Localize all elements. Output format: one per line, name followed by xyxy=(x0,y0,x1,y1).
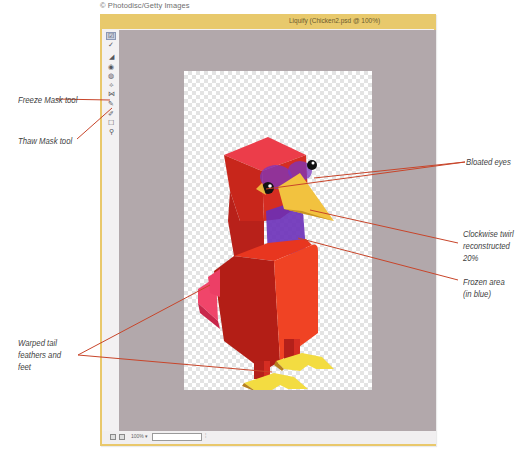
zoom-dropdown-icon[interactable]: ▾ xyxy=(145,433,148,439)
status-bar: 100% ▾ ¦ xyxy=(102,431,436,444)
pucker-tool-icon[interactable]: ◉ xyxy=(106,63,116,71)
callout-twirl-line2: reconstructed xyxy=(463,240,514,252)
callout-bloated-eyes: Bloated eyes xyxy=(466,156,511,168)
zoom-level: 100% xyxy=(131,433,144,439)
forward-warp-tool-icon[interactable]: ☑ xyxy=(106,32,116,40)
callout-warped: Warped tail feathers and feet xyxy=(18,337,61,373)
callout-frozen-area: Frozen area (in blue) xyxy=(463,276,505,300)
callout-freeze-mask: Freeze Mask tool xyxy=(18,94,77,106)
callout-twirl-line1: Clockwise twirl xyxy=(463,228,514,240)
callout-twirl: Clockwise twirl reconstructed 20% xyxy=(463,228,514,264)
callout-twirl-line3: 20% xyxy=(463,252,514,264)
image-canvas[interactable] xyxy=(184,71,372,390)
twirl-clockwise-tool-icon[interactable]: ◢ xyxy=(106,53,116,61)
preview-canvas-area[interactable] xyxy=(119,30,436,431)
push-left-tool-icon[interactable]: ⟡ xyxy=(106,81,116,89)
callout-warped-line2: feathers and xyxy=(18,349,61,361)
mirror-tool-icon[interactable]: ⋈ xyxy=(106,90,116,98)
zoom-field[interactable] xyxy=(152,433,202,441)
liquify-toolbar: ☑ ✓ ◢ ◉ ◍ ⟡ ⋈ ✎ ✐ ☐ ⚲ xyxy=(103,30,119,148)
image-credit: © Photodisc/Getty Images xyxy=(100,1,190,10)
window-title: Liquify (Chicken2.psd @ 100%) xyxy=(289,17,380,24)
zoom-out-button[interactable] xyxy=(110,434,116,440)
callout-thaw-mask: Thaw Mask tool xyxy=(18,135,72,147)
title-bar[interactable]: Liquify (Chicken2.psd @ 100%) xyxy=(100,14,436,29)
zoom-tool-icon[interactable]: ⚲ xyxy=(106,128,116,136)
freeze-mask-tool-icon[interactable]: ✎ xyxy=(106,100,116,108)
callout-warped-line1: Warped tail xyxy=(18,337,61,349)
callout-frozen-line1: Frozen area xyxy=(463,276,505,288)
chicken-image xyxy=(184,71,372,390)
zoom-in-button[interactable] xyxy=(119,434,125,440)
status-divider: ¦ xyxy=(205,432,206,438)
callout-frozen-line2: (in blue) xyxy=(463,288,505,300)
thaw-mask-tool-icon[interactable]: ✐ xyxy=(106,110,116,118)
liquify-window: Liquify (Chicken2.psd @ 100%) ☑ ✓ ◢ ◉ ◍ … xyxy=(100,14,436,446)
reconstruct-tool-icon[interactable]: ✓ xyxy=(106,41,116,49)
callout-warped-line3: feet xyxy=(18,361,61,373)
bloat-tool-icon[interactable]: ◍ xyxy=(106,72,116,80)
hand-tool-icon[interactable]: ☐ xyxy=(106,119,116,127)
